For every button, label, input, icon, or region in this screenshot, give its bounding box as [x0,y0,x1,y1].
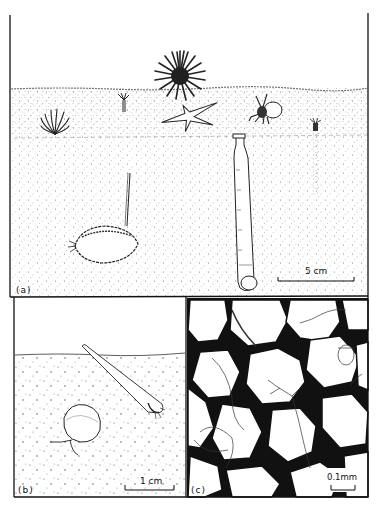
panel-a [10,13,368,297]
panel-c [187,297,368,497]
figure: (a) 5 cm (b) 1 cm (c) 0.1mm [0,0,384,505]
panel-b [14,297,186,497]
panel-a-label: (a) [16,285,32,295]
panel-b-label: (b) [18,485,34,495]
panel-c-scale-label: 0.1mm [327,472,357,482]
panel-a-scale-label: 5 cm [305,266,327,276]
panel-c-label: (c) [191,485,206,495]
panel-b-scale-label: 1 cm [140,476,162,486]
figure-illustration [0,0,384,505]
